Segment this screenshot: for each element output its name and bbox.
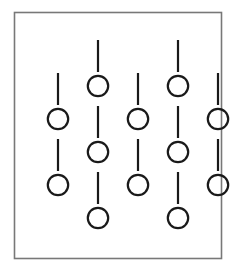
border-rectangle (15, 13, 222, 259)
lattice-diagram (0, 0, 230, 271)
figure-root (0, 0, 230, 271)
